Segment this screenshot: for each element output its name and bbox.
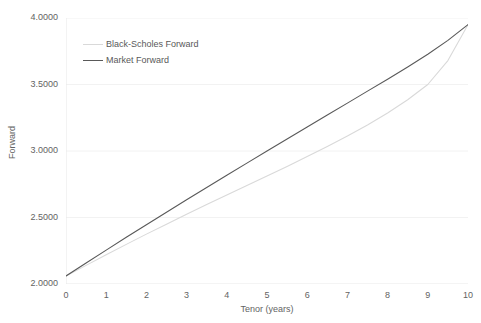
y-tick-label: 2.5000 bbox=[30, 213, 58, 222]
x-tick-label: 10 bbox=[453, 290, 481, 300]
x-axis-title: Tenor (years) bbox=[66, 304, 468, 314]
legend-label-market: Market Forward bbox=[106, 55, 169, 65]
legend-item-black-scholes-forward: Black-Scholes Forward bbox=[83, 36, 199, 52]
forward-curve-chart: 2.00002.50003.00003.50004.0000 Forward B… bbox=[0, 0, 481, 323]
x-tick-label: 8 bbox=[373, 290, 403, 300]
x-tick-label: 9 bbox=[413, 290, 443, 300]
plot-area: Black-Scholes Forward Market Forward bbox=[66, 18, 468, 284]
y-axis-title: Forward bbox=[8, 113, 17, 173]
x-tick-label: 6 bbox=[292, 290, 322, 300]
legend-line-swatch-black-scholes bbox=[83, 44, 103, 45]
x-tick-label: 0 bbox=[51, 290, 81, 300]
x-tick-label: 2 bbox=[131, 290, 161, 300]
x-tick-label: 7 bbox=[332, 290, 362, 300]
x-axis-tick-labels: 012345678910 bbox=[66, 290, 468, 304]
legend-item-market-forward: Market Forward bbox=[83, 52, 199, 68]
legend-line-swatch-market bbox=[83, 60, 103, 61]
x-tick-label: 4 bbox=[212, 290, 242, 300]
x-tick-label: 5 bbox=[252, 290, 282, 300]
x-tick-label: 1 bbox=[91, 290, 121, 300]
legend-label-black-scholes: Black-Scholes Forward bbox=[106, 39, 199, 49]
y-tick-label: 3.0000 bbox=[30, 146, 58, 155]
y-tick-label: 3.5000 bbox=[30, 80, 58, 89]
chart-legend: Black-Scholes Forward Market Forward bbox=[83, 36, 199, 68]
y-tick-label: 4.0000 bbox=[30, 13, 58, 22]
y-tick-label: 2.0000 bbox=[30, 279, 58, 288]
x-tick-label: 3 bbox=[172, 290, 202, 300]
